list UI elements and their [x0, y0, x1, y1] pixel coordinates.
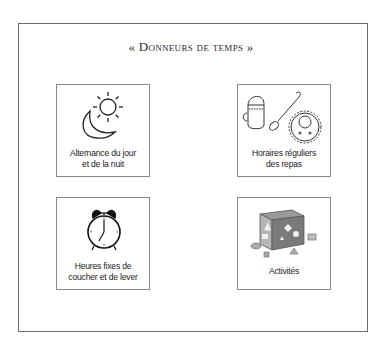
card-label: Horaires réguliers des repas: [238, 148, 330, 170]
label-line: coucher et de lever: [57, 272, 149, 283]
card-label: Heures fixes de coucher et de lever: [57, 261, 149, 283]
card-sleep: 12369 Heures fixes de coucher et de leve…: [56, 197, 150, 290]
page-title: « Donneurs de temps »: [0, 39, 382, 55]
svg-text:6: 6: [103, 243, 105, 247]
card-meals: Horaires réguliers des repas: [237, 84, 331, 177]
card-activities: Activités: [237, 197, 331, 290]
svg-text:3: 3: [116, 230, 118, 234]
card-day-night: Alternance du jour et de la nuit: [56, 84, 150, 177]
label-line: Alternance du jour: [57, 148, 149, 159]
svg-text:9: 9: [90, 230, 92, 234]
card-label: Activités: [238, 266, 330, 277]
card-label: Alternance du jour et de la nuit: [57, 148, 149, 170]
label-line: et de la nuit: [57, 159, 149, 170]
label-line: Heures fixes de: [57, 261, 149, 272]
label-line: des repas: [238, 159, 330, 170]
label-line: Activités: [238, 266, 330, 277]
label-line: Horaires réguliers: [238, 148, 330, 159]
shape-sorter-cube-icon: [238, 198, 332, 291]
svg-text:12: 12: [102, 217, 106, 221]
